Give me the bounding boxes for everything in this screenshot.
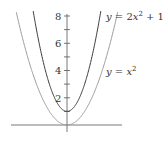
parabola-chart: 8 6 4 2 y = 2x2 + 1 y = x2 bbox=[0, 0, 167, 143]
y-tick-label-4: 4 bbox=[55, 65, 61, 76]
label-curve-2x2-plus-1: y = 2x2 + 1 bbox=[105, 10, 164, 22]
y-tick-label-8: 8 bbox=[55, 11, 61, 22]
y-tick-label-2: 2 bbox=[55, 93, 61, 104]
label-curve-x2: y = x2 bbox=[105, 65, 137, 77]
y-tick-label-6: 6 bbox=[55, 38, 61, 49]
